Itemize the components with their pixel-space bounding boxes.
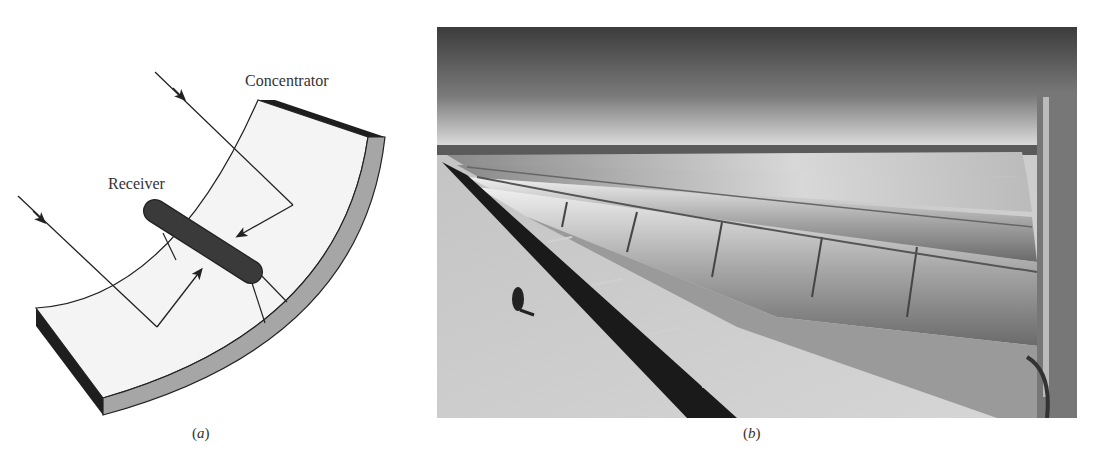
photo-graphic [437,27,1077,418]
receiver-label: Receiver [108,175,165,193]
panel-a-caption: (a) [192,425,210,442]
caption-paren: ) [756,425,761,441]
ray-arrow-icon [173,88,184,99]
trough-field-photo [437,27,1077,418]
trough-schematic: Concentrator Receiver [0,0,420,468]
person [512,287,524,311]
caption-letter: b [748,425,756,441]
ray-arrow-icon [33,211,44,222]
panel-b-caption: (b) [743,425,761,442]
caption-paren: ) [205,425,210,441]
caption-letter: a [197,425,205,441]
sky [437,27,1077,152]
trough-diagram-graphic [0,0,420,468]
concentrator-label: Concentrator [245,72,329,90]
end-structure-highlight [1043,97,1049,397]
